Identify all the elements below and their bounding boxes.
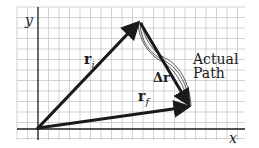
x-axis-label: x [229, 130, 237, 146]
displacement-diagram: y x ri rf Δr Actual Path [0, 0, 259, 148]
r-initial-subscript: i [91, 59, 94, 70]
actual-path-label-line2: Path [193, 65, 225, 81]
r-initial-label: ri [84, 51, 95, 70]
vector-r-final [38, 107, 187, 128]
delta-r-label: Δr [153, 70, 170, 85]
y-axis-label: y [24, 12, 34, 28]
